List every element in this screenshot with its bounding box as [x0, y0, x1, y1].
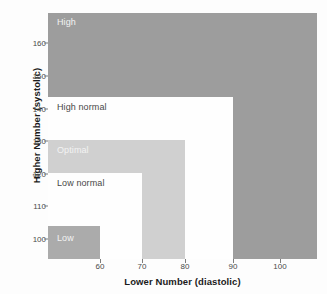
- x-tick-mark: [185, 259, 186, 263]
- y-tick-label: 160: [22, 39, 46, 48]
- region-label-high: High: [57, 17, 76, 27]
- x-tick-mark: [280, 259, 281, 263]
- y-tick-label: 150: [22, 72, 46, 81]
- region-label-optimal: Optimal: [57, 145, 89, 155]
- blood-pressure-category-chart: Higher Number (systolic) 160150140130120…: [0, 0, 327, 294]
- region-label-low-normal: Low normal: [57, 178, 105, 188]
- x-axis-title: Lower Number (diastolic): [48, 276, 317, 287]
- x-tick-label: 80: [170, 262, 200, 271]
- y-tick-label: 100: [22, 235, 46, 244]
- x-tick-label: 70: [127, 262, 157, 271]
- region-low: Low: [48, 226, 100, 259]
- y-tick-label: 110: [22, 202, 46, 211]
- plot-area: High High normal Optimal Low normal Low: [48, 13, 317, 259]
- y-tick-label: 130: [22, 137, 46, 146]
- y-tick-label: 140: [22, 105, 46, 114]
- x-tick-mark: [233, 259, 234, 263]
- x-tick-label: 100: [265, 262, 295, 271]
- x-tick-mark: [100, 259, 101, 263]
- x-tick-mark: [142, 259, 143, 263]
- region-label-low: Low: [57, 233, 74, 243]
- x-tick-label: 90: [218, 262, 248, 271]
- region-label-high-normal: High normal: [57, 102, 107, 112]
- y-tick-label: 120: [22, 170, 46, 179]
- x-tick-label: 60: [85, 262, 115, 271]
